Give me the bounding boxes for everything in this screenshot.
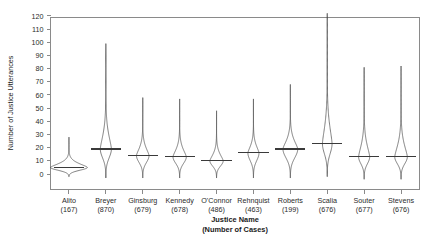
x-tick-label-count: (676) — [393, 205, 410, 214]
y-tick-label: 100 — [32, 38, 44, 47]
y-tick-label: 80 — [36, 64, 44, 73]
x-tick-label-count: (677) — [356, 205, 373, 214]
violin-shape — [173, 99, 186, 178]
y-tick-label: 60 — [36, 91, 44, 100]
violin-shape — [100, 44, 111, 178]
violin-shape — [210, 111, 223, 178]
x-axis-title-subline: (Number of Cases) — [202, 225, 268, 234]
violin-shape — [136, 98, 149, 178]
violin-shape — [359, 67, 370, 179]
x-tick-label-count: (199) — [282, 205, 299, 214]
y-tick-label: 90 — [36, 51, 44, 60]
y-tick-label: 0 — [40, 170, 44, 179]
x-tick-label-name: Souter — [354, 196, 376, 205]
x-tick-label-name: Stevens — [388, 196, 414, 205]
y-tick-label: 110 — [32, 25, 43, 34]
x-tick-label-count: (676) — [319, 205, 336, 214]
y-tick-label: 70 — [36, 77, 44, 86]
x-axis: Alito(167)Breyer(870)Ginsburg(679)Kenned… — [61, 190, 415, 214]
y-tick-label: 40 — [36, 117, 44, 126]
y-axis: 0102030405060708090100110120 — [32, 12, 51, 179]
x-tick-label-count: (870) — [97, 205, 114, 214]
y-tick-label: 50 — [36, 104, 44, 113]
y-tick-label: 20 — [36, 143, 44, 152]
chart-canvas: 0102030405060708090100110120 Alito(167)B… — [0, 0, 435, 240]
violin-shape — [248, 99, 259, 178]
y-tick-label: 120 — [32, 12, 44, 21]
violin-shape — [322, 13, 332, 176]
x-axis-title: Justice Name — [211, 215, 259, 224]
x-tick-label-count: (679) — [134, 205, 151, 214]
x-tick-label-name: O'Connor — [201, 196, 232, 205]
y-tick-label: 10 — [36, 156, 44, 165]
x-tick-label-name: Ginsburg — [128, 196, 157, 205]
x-tick-label-name: Roberts — [278, 196, 304, 205]
violin-shape — [51, 137, 88, 177]
x-tick-label-count: (167) — [61, 205, 78, 214]
x-tick-label-count: (678) — [171, 205, 188, 214]
x-tick-label-name: Kennedy — [165, 196, 194, 205]
y-axis-title: Number of Justice Utterances — [6, 55, 15, 150]
x-tick-label-count: (486) — [208, 205, 225, 214]
x-tick-label-name: Rehnquist — [237, 196, 269, 205]
x-tick-label-name: Scalia — [317, 196, 337, 205]
violin-shape — [395, 66, 408, 179]
violin-chart-figure: 0102030405060708090100110120 Alito(167)B… — [0, 0, 435, 240]
violin-shape — [283, 84, 298, 178]
x-tick-label-name: Alito — [62, 196, 76, 205]
y-tick-label: 30 — [36, 130, 44, 139]
x-tick-label-count: (463) — [245, 205, 262, 214]
violin-series-group — [51, 13, 417, 179]
x-tick-label-name: Breyer — [95, 196, 117, 205]
